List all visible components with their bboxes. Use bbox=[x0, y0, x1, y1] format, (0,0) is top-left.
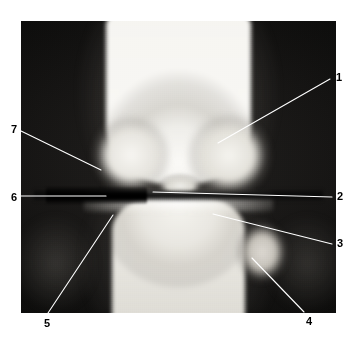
annotation-label-5: 5 bbox=[44, 318, 50, 329]
film-grain-texture bbox=[21, 21, 336, 313]
annotation-label-6: 6 bbox=[11, 192, 17, 203]
annotation-label-7: 7 bbox=[11, 124, 17, 135]
annotated-radiograph-figure: 1234567 bbox=[0, 0, 361, 340]
annotation-label-3: 3 bbox=[337, 238, 343, 249]
annotation-label-4: 4 bbox=[306, 316, 312, 327]
xray-plate bbox=[21, 21, 336, 313]
annotation-label-2: 2 bbox=[337, 191, 343, 202]
annotation-label-1: 1 bbox=[336, 72, 342, 83]
